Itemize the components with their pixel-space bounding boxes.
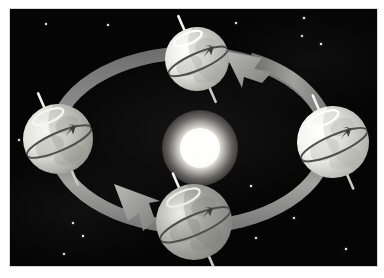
earth-svg-left — [9, 82, 115, 196]
earth-tilted-group-right — [279, 84, 378, 200]
earth-right — [275, 84, 378, 200]
earth-tilted-group-left — [9, 82, 113, 196]
earth-tilted-group-bottom — [138, 162, 254, 267]
earth-tilted-group-top — [149, 8, 248, 113]
earth-bottom — [134, 162, 254, 267]
earth-svg-top — [143, 8, 251, 113]
space-scene — [9, 8, 378, 267]
earth-top — [143, 8, 251, 113]
earth-svg-bottom — [134, 162, 254, 267]
earth-left — [9, 82, 115, 196]
figure-root: Earth's orbit around the Sun showing axi… — [0, 0, 384, 278]
earth-svg-right — [275, 84, 378, 200]
